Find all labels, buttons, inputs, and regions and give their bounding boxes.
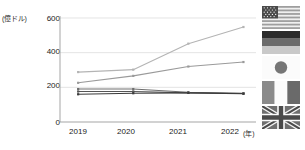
- flag-germany-icon: [262, 31, 300, 54]
- x-axis-tick: 2022: [221, 127, 239, 136]
- data-point-marker: [242, 26, 244, 28]
- flag-france-icon: [262, 81, 300, 104]
- data-point-marker: [242, 93, 244, 95]
- data-point-marker: [132, 92, 134, 94]
- data-point-marker: [132, 75, 134, 77]
- x-axis-tick: 2020: [117, 127, 135, 136]
- data-point-marker: [77, 90, 79, 92]
- data-point-marker: [77, 88, 79, 90]
- series-markers: [77, 26, 245, 95]
- data-point-marker: [132, 69, 134, 71]
- series-line: [78, 62, 243, 83]
- plot-svg: [62, 18, 252, 122]
- data-point-marker: [77, 93, 79, 95]
- flag-usa-icon: [262, 6, 300, 29]
- series-line: [78, 27, 243, 72]
- data-point-marker: [187, 92, 189, 94]
- series-lines: [78, 27, 243, 94]
- x-axis-tick: 2021: [169, 127, 187, 136]
- flag-uk-icon: [262, 106, 300, 129]
- series-line: [78, 93, 243, 94]
- data-point-marker: [242, 61, 244, 63]
- legend-flag-column: [262, 6, 300, 129]
- y-axis-tick-group: 600 400 200 0: [0, 0, 60, 150]
- y-axis-tick: 0: [14, 118, 60, 127]
- y-axis-tick: 200: [14, 81, 60, 90]
- x-axis-tick: 2019: [69, 127, 87, 136]
- data-point-marker: [187, 43, 189, 45]
- y-axis-tick: 400: [14, 47, 60, 56]
- data-point-marker: [187, 65, 189, 67]
- data-point-marker: [132, 88, 134, 90]
- flag-japan-icon: [262, 56, 300, 79]
- data-point-marker: [77, 71, 79, 73]
- plot-area: [62, 18, 252, 122]
- y-axis-tick: 600: [14, 14, 60, 23]
- data-point-marker: [77, 82, 79, 84]
- line-chart: (億ドル) 600 400 200 0 2019 2020 2021 2022 …: [0, 0, 305, 150]
- x-axis-unit-label: (年): [243, 128, 255, 138]
